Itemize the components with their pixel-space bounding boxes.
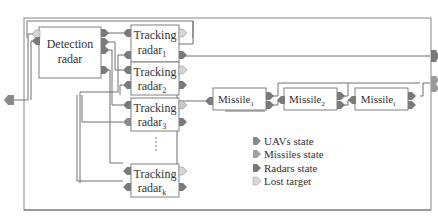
system-diagram: Detection radar Tracking radar1 Tracking… — [0, 0, 438, 222]
legend: UAVs state Missiles state Radars state L… — [253, 135, 324, 187]
svg-text:Tracking: Tracking — [134, 65, 177, 79]
tracking-radar-2-block[interactable]: Tracking radar2 — [123, 62, 187, 95]
svg-text:radark: radark — [138, 181, 167, 197]
detection-radar-label: Detection — [47, 37, 94, 51]
tracking-radar-k-block[interactable]: Tracking radark — [123, 164, 187, 197]
svg-text:radar1: radar1 — [138, 43, 167, 59]
svg-text:Tracking: Tracking — [134, 101, 177, 115]
svg-text:radar2: radar2 — [138, 79, 167, 95]
svg-text:radar: radar — [58, 52, 83, 66]
legend-item-radars-state: Radars state — [253, 162, 318, 174]
missile-1-block[interactable]: Missile1 — [205, 88, 274, 110]
legend-item-missiles-state: Missiles state — [253, 148, 324, 160]
svg-text:radar3: radar3 — [138, 115, 167, 131]
svg-text:UAVs state: UAVs state — [264, 135, 314, 147]
missile-2-block[interactable]: Missile2 — [277, 88, 345, 110]
svg-text:Lost target: Lost target — [264, 175, 311, 187]
subsystem-output-port-1 — [431, 50, 438, 62]
tracking-radar-1-block[interactable]: Tracking radar1 — [123, 25, 187, 62]
detection-radar-block[interactable]: Detection radar — [32, 27, 109, 78]
subsystem-output-port-2 — [431, 76, 438, 84]
subsystem-input-port — [4, 95, 14, 105]
tracking-radar-3-block[interactable]: Tracking radar3 — [123, 98, 187, 131]
missile-i-block[interactable]: Missilei — [348, 88, 416, 110]
legend-item-lost-target: Lost target — [253, 175, 311, 187]
legend-item-uavs-state: UAVs state — [253, 135, 314, 147]
svg-text:Tracking: Tracking — [134, 167, 177, 181]
svg-text:Tracking: Tracking — [134, 28, 177, 42]
svg-text:Radars state: Radars state — [264, 162, 318, 174]
svg-text:Missiles state: Missiles state — [264, 148, 324, 160]
